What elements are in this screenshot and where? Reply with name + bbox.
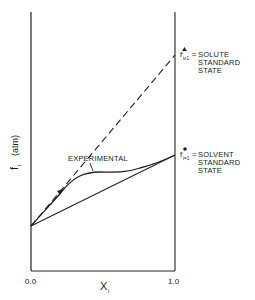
y-axis-unit: (atm) (10, 135, 20, 156)
raoult-law-line (31, 155, 175, 226)
experimental-label: EXPERIMENTAL (68, 154, 128, 163)
solute-subscript: i≠1 (183, 56, 189, 61)
solvent-line-3: STATE (198, 166, 222, 175)
x-tick-1: 1.0 (168, 277, 180, 286)
y-axis-sub: i (16, 165, 22, 166)
solute-line-3: STATE (198, 66, 222, 75)
x-axis-main: X (100, 280, 108, 292)
x-axis-sub: i (108, 288, 109, 294)
y-axis-title: f i (atm) (8, 135, 22, 170)
filled-circle-icon (183, 147, 187, 151)
solvent-annotation: f i=1 = SOLVENT STANDARD STATE (180, 147, 241, 175)
experimental-leader-line (90, 163, 93, 171)
triangle-icon (182, 47, 187, 51)
solute-annotation: f i≠1 = SOLUTE STANDARD STATE (180, 47, 241, 75)
solute-equals: = (192, 50, 197, 59)
solvent-subscript: i=1 (183, 156, 190, 161)
solvent-equals: = (192, 150, 197, 159)
henry-law-dashed-line (31, 55, 175, 226)
x-tick-0: 0.0 (25, 277, 37, 286)
fugacity-chart: EXPERIMENTAL f i≠1 = SOLUTE STANDARD STA… (0, 0, 255, 300)
